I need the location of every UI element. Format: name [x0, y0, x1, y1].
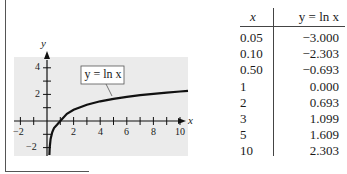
- table-row: 20.693: [240, 95, 345, 111]
- table-row: 31.099: [240, 111, 345, 127]
- table-header: x y = ln x: [240, 8, 345, 26]
- table-row: 10.000: [240, 79, 345, 95]
- x-tick-label: 2: [71, 126, 76, 137]
- table-row: 102.303: [240, 143, 345, 159]
- y-axis-label: y: [41, 37, 46, 49]
- curve-label: y = ln x: [83, 67, 123, 82]
- y-tick-label: −2: [26, 141, 37, 152]
- y-tick-label: 2: [35, 88, 40, 99]
- table-row: 0.10−2.303: [240, 46, 345, 62]
- table-row: 51.609: [240, 127, 345, 143]
- x-tick-label: 6: [124, 126, 129, 137]
- y-axis-arrow-icon: [44, 51, 50, 59]
- x-tick-label: 4: [98, 126, 103, 137]
- table-row: 0.05−3.000: [240, 30, 345, 46]
- header-y: y = ln x: [278, 9, 345, 25]
- values-table: x y = ln x 0.05−3.000 0.10−2.303 0.50−0.…: [240, 8, 345, 160]
- header-x: x: [240, 9, 278, 25]
- y-tick-label: 4: [35, 61, 40, 72]
- figure: y = ln x y x −2 2 4 6 8 10 4 2 −2 x y = …: [0, 0, 347, 174]
- x-tick-label: 8: [151, 126, 156, 137]
- table-row: 0.50−0.693: [240, 62, 345, 78]
- x-tick-label: −2: [13, 126, 24, 137]
- x-axis-label: x: [188, 114, 193, 126]
- x-tick-label: 10: [175, 126, 185, 137]
